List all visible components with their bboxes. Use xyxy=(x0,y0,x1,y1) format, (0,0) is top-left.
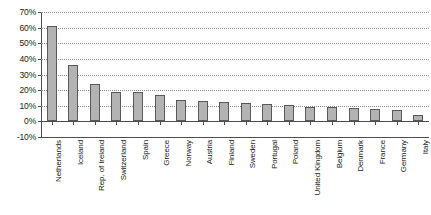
gridline xyxy=(41,137,429,138)
x-axis-tick xyxy=(160,121,161,125)
y-axis-tick-label: 40% xyxy=(0,55,36,64)
x-axis-tick xyxy=(52,121,53,125)
bar xyxy=(349,108,359,121)
x-axis-tick-label: Italy xyxy=(422,140,430,154)
y-axis-labels: 70%60%50%40%30%20%10%0%-10% xyxy=(0,0,36,215)
x-axis-tick-label: Denmark xyxy=(357,140,365,172)
x-axis-tick xyxy=(375,121,376,125)
y-axis-tick-label: 60% xyxy=(0,23,36,32)
bar xyxy=(47,26,57,121)
bars xyxy=(41,12,429,137)
x-axis-tick-label: Finland xyxy=(228,140,236,166)
bar xyxy=(219,102,229,122)
x-axis-tick-label: Belgium xyxy=(336,140,344,168)
x-axis-tick xyxy=(203,121,204,125)
bar xyxy=(392,110,402,121)
x-axis-tick-label: Poland xyxy=(292,140,300,164)
bar xyxy=(262,104,272,121)
bar xyxy=(305,107,315,122)
y-axis-tick-label: 10% xyxy=(0,102,36,111)
bar xyxy=(68,65,78,121)
y-axis-tick-label: 0% xyxy=(0,117,36,126)
bar xyxy=(198,101,208,121)
x-axis-tick-label: Portugal xyxy=(271,140,279,169)
x-axis-tick-label: France xyxy=(379,140,387,164)
plot-area xyxy=(41,12,429,137)
y-axis-tick-label: -10% xyxy=(0,133,36,142)
bar xyxy=(90,84,100,122)
x-axis-tick-label: Austria xyxy=(206,140,214,164)
y-axis-tick xyxy=(38,137,41,138)
x-axis-tick xyxy=(138,121,139,125)
x-axis-tick-label: Sweden xyxy=(249,140,257,168)
x-axis-tick xyxy=(397,121,398,125)
bar-chart: 70%60%50%40%30%20%10%0%-10% NetherlandsI… xyxy=(0,0,431,215)
bar xyxy=(284,105,294,121)
x-axis-tick-label: United Kingdom xyxy=(314,140,322,196)
bar xyxy=(133,92,143,121)
x-axis-tick-label: Germany xyxy=(400,140,408,172)
x-axis-tick xyxy=(116,121,117,125)
x-axis-tick xyxy=(354,121,355,125)
bar xyxy=(111,92,121,122)
x-axis-ticks xyxy=(41,121,429,125)
bar xyxy=(370,109,380,122)
x-axis-tick-label: Rep. of Ireland xyxy=(98,140,106,191)
y-axis-tick-label: 70% xyxy=(0,8,36,17)
bar xyxy=(155,95,165,122)
x-axis-tick-label: Spain xyxy=(142,140,150,160)
x-axis-tick-label: Switzerland xyxy=(120,140,128,180)
x-axis-tick xyxy=(181,121,182,125)
y-axis-tick-label: 20% xyxy=(0,86,36,95)
x-axis-tick xyxy=(418,121,419,125)
x-axis-tick xyxy=(289,121,290,125)
bar xyxy=(327,107,337,121)
x-axis-tick xyxy=(246,121,247,125)
bar xyxy=(176,100,186,122)
x-axis-tick-label: Netherlands xyxy=(55,140,63,182)
x-axis-tick-label: Norway xyxy=(185,140,193,167)
x-axis-tick xyxy=(73,121,74,125)
y-axis-tick-label: 50% xyxy=(0,39,36,48)
bar xyxy=(241,103,251,122)
x-axis-tick xyxy=(95,121,96,125)
y-axis-tick-label: 30% xyxy=(0,70,36,79)
x-axis-labels: NetherlandsIcelandRep. of IrelandSwitzer… xyxy=(41,140,429,215)
x-axis-tick-label: Iceland xyxy=(77,140,85,165)
x-axis-tick-label: Greece xyxy=(163,140,171,166)
x-axis-tick xyxy=(332,121,333,125)
x-axis-tick xyxy=(267,121,268,125)
x-axis-tick xyxy=(310,121,311,125)
x-axis-tick xyxy=(224,121,225,125)
